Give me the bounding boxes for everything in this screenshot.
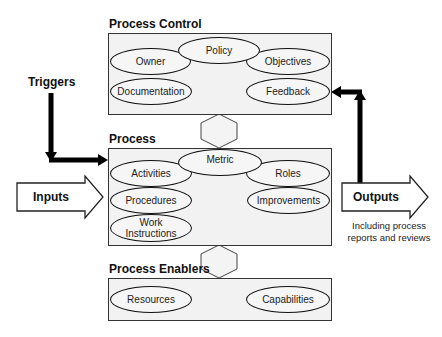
policy-label: Policy xyxy=(206,45,233,56)
policy-ellipse: Policy xyxy=(178,37,260,64)
roles-label: Roles xyxy=(275,168,301,179)
capabilities-label: Capabilities xyxy=(262,294,314,305)
outputs-note: Including process reports and reviews xyxy=(336,220,442,244)
capabilities-ellipse: Capabilities xyxy=(246,286,330,313)
documentation-ellipse: Documentation xyxy=(110,78,192,105)
feedback-label: Feedback xyxy=(266,86,310,97)
procedures-ellipse: Procedures xyxy=(110,187,192,214)
work-instructions-line2: Instructions xyxy=(125,228,176,239)
documentation-label: Documentation xyxy=(117,86,184,97)
triggers-arrow xyxy=(45,93,108,166)
work-instructions-label: Work Instructions xyxy=(125,217,176,239)
owner-label: Owner xyxy=(136,56,165,67)
activities-label: Activities xyxy=(131,168,170,179)
work-instructions-ellipse: Work Instructions xyxy=(110,214,192,242)
improvements-ellipse: Improvements xyxy=(247,187,330,214)
triggers-label: Triggers xyxy=(28,75,75,89)
resources-label: Resources xyxy=(127,294,175,305)
work-instructions-line1: Work xyxy=(125,217,176,228)
control-process-connector xyxy=(201,114,237,148)
feedback-ellipse: Feedback xyxy=(246,78,330,105)
metric-ellipse: Metric xyxy=(178,149,262,176)
outputs-note-line2: reports and reviews xyxy=(336,232,442,244)
feedback-arrow xyxy=(331,86,366,183)
inputs-label: Inputs xyxy=(17,190,85,204)
improvements-label: Improvements xyxy=(257,195,320,206)
outputs-label: Outputs xyxy=(342,190,410,204)
metric-label: Metric xyxy=(206,154,233,165)
outputs-note-line1: Including process xyxy=(336,220,442,232)
process-enablers-title: Process Enablers xyxy=(109,262,210,276)
process-title: Process xyxy=(109,132,156,146)
process-control-title: Process Control xyxy=(109,17,202,31)
resources-ellipse: Resources xyxy=(110,286,192,313)
procedures-label: Procedures xyxy=(125,195,176,206)
process-diagram: Process Control Process Process Enablers… xyxy=(0,0,442,337)
objectives-label: Objectives xyxy=(265,56,312,67)
